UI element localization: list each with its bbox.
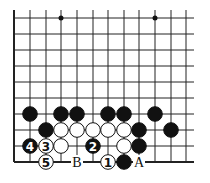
point-label-a: A (134, 155, 145, 170)
black-stone (70, 107, 85, 122)
point-label-b: B (72, 155, 81, 170)
black-stone (117, 155, 132, 170)
white-stone (70, 123, 85, 138)
black-stone (101, 107, 116, 122)
black-stone (117, 107, 132, 122)
white-stone (101, 123, 116, 138)
black-stone (164, 123, 179, 138)
white-stone (54, 139, 69, 154)
star-point (59, 16, 64, 21)
black-stone (54, 107, 69, 122)
black-stone (148, 107, 163, 122)
black-stone (132, 123, 147, 138)
move-number-2: 2 (89, 140, 97, 154)
move-number-3: 3 (42, 140, 50, 154)
white-stone (117, 123, 132, 138)
star-point (153, 16, 158, 21)
white-stone (86, 123, 101, 138)
go-board-diagram: BA43251 (0, 0, 210, 183)
white-stone (54, 123, 69, 138)
move-number-5: 5 (42, 156, 50, 170)
black-stone (39, 123, 54, 138)
move-number-4: 4 (26, 140, 34, 154)
white-stone (117, 139, 132, 154)
black-stone (132, 139, 147, 154)
black-stone (23, 107, 38, 122)
move-number-1: 1 (104, 156, 112, 170)
